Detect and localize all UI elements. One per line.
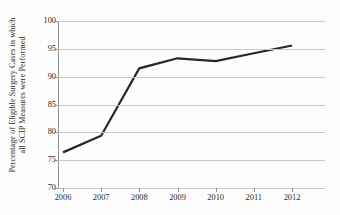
y-axis-tick-label: 70: [34, 184, 56, 192]
gridline: [58, 49, 325, 50]
y-axis-tick-label: 90: [34, 73, 56, 81]
x-axis-tick-label: 2012: [272, 194, 312, 202]
x-axis-tick-label: 2009: [158, 194, 198, 202]
gridline: [58, 188, 325, 189]
x-axis-tick-mark: [216, 188, 217, 192]
x-axis-tick-mark: [63, 188, 64, 192]
x-axis-tick-label: 2010: [196, 194, 236, 202]
x-axis-tick-label: 2011: [234, 194, 274, 202]
y-axis-tick-mark: [54, 105, 58, 106]
y-axis-tick-mark: [54, 160, 58, 161]
y-axis-tick-mark: [54, 132, 58, 133]
x-axis-tick-mark: [292, 188, 293, 192]
line-chart: Percentage of Eligible Surgery Cases in …: [0, 0, 340, 215]
x-axis-tick-label: 2008: [119, 194, 159, 202]
gridline: [58, 21, 325, 22]
y-axis-tick-labels: 707580859095100: [33, 0, 56, 215]
y-axis-title-line-1: Percentage of Eligible Surgery Cases in …: [8, 18, 18, 173]
x-axis-tick-mark: [254, 188, 255, 192]
y-axis-tick-mark: [54, 188, 58, 189]
series-polyline: [63, 45, 292, 152]
y-axis-tick-label: 85: [34, 101, 56, 109]
y-axis-title: Percentage of Eligible Surgery Cases in …: [0, 0, 36, 190]
plot-area: [58, 21, 325, 188]
gridline: [58, 77, 325, 78]
x-axis-tick-mark: [178, 188, 179, 192]
gridline: [58, 132, 325, 133]
y-axis-tick-label: 80: [34, 128, 56, 136]
x-axis-tick-mark: [101, 188, 102, 192]
y-axis-title-line-2: all SCIP Measures were Performed: [18, 36, 28, 153]
y-axis-tick-label: 95: [34, 45, 56, 53]
x-axis-tick-mark: [139, 188, 140, 192]
y-axis-tick-mark: [54, 49, 58, 50]
y-axis-tick-label: 75: [34, 156, 56, 164]
y-axis-tick-label: 100: [34, 17, 56, 25]
y-axis-tick-mark: [54, 21, 58, 22]
gridline: [58, 105, 325, 106]
x-axis-tick-label: 2006: [43, 194, 83, 202]
gridline: [58, 160, 325, 161]
x-axis-tick-label: 2007: [81, 194, 121, 202]
y-axis-tick-mark: [54, 77, 58, 78]
